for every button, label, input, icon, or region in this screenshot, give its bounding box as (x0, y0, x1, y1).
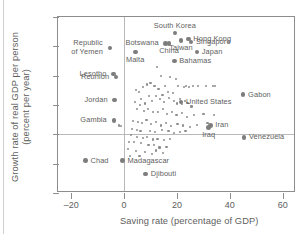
data-point (145, 119, 147, 121)
x-axis-tick (177, 193, 178, 199)
data-point (144, 102, 146, 104)
data-point (167, 91, 169, 93)
data-point (171, 111, 173, 113)
data-point (169, 138, 171, 140)
data-point (213, 114, 215, 116)
point-label-djibouti: Djibouti (151, 170, 211, 178)
data-point (149, 82, 151, 84)
data-point (161, 129, 163, 131)
data-point (147, 144, 149, 146)
data-point (196, 124, 198, 126)
data-point-djibouti (143, 172, 148, 177)
data-point (139, 104, 141, 106)
data-point (173, 100, 175, 102)
data-point (155, 95, 157, 97)
data-point (165, 122, 167, 124)
point-label-madagascar: Madagascar (128, 157, 188, 165)
data-point (155, 149, 157, 151)
y-axis-tick (53, 105, 59, 106)
data-point (160, 75, 162, 77)
data-point (155, 121, 157, 123)
data-point (120, 125, 122, 127)
y-axis-tick (53, 17, 59, 18)
data-point (172, 92, 174, 94)
x-axis-tick-label: –20 (51, 200, 91, 210)
data-point (177, 85, 179, 87)
data-point (168, 97, 170, 99)
x-axis-tick-label: 0 (104, 200, 144, 210)
x-axis-tick-label: 60 (263, 200, 303, 210)
point-label-gabon: Gabon (248, 91, 303, 99)
point-label-iraq: Iraq (179, 131, 239, 139)
data-point (136, 129, 138, 131)
point-label-reunion: Reunion (49, 73, 109, 81)
x-axis-tick-label: 40 (210, 200, 250, 210)
data-point (128, 141, 130, 143)
data-point (181, 112, 183, 114)
data-point (162, 108, 164, 110)
x-axis-tick (124, 193, 125, 199)
y-axis-tick (53, 193, 59, 194)
data-point (135, 150, 137, 152)
data-point (148, 95, 150, 97)
x-axis-tick (71, 193, 72, 199)
data-point (143, 110, 145, 112)
data-point (137, 121, 139, 123)
x-axis-tick (283, 193, 284, 199)
data-point (214, 85, 216, 87)
point-label-republic-of-yemen: Republic of Yemen (43, 39, 103, 55)
point-label-bahamas: Bahamas (179, 57, 239, 65)
data-point-jordan (112, 98, 117, 103)
point-label-gambia: Gambia (47, 116, 107, 124)
data-point (133, 141, 135, 143)
data-point (151, 100, 153, 102)
data-point-south-korea (173, 31, 178, 36)
point-label-malta: Malta (105, 56, 165, 64)
data-point (154, 131, 156, 133)
data-point (146, 136, 148, 138)
data-point (170, 125, 172, 127)
data-point-madagascar (120, 158, 125, 163)
data-point (169, 76, 171, 78)
point-label-japan: Japan (202, 48, 262, 56)
x-axis-tick (230, 193, 231, 199)
data-point (166, 113, 168, 115)
data-point (173, 132, 175, 134)
data-point-venezuela (242, 135, 247, 140)
data-point (152, 111, 154, 113)
data-point (151, 153, 153, 155)
data-point (138, 91, 140, 93)
data-point (175, 78, 177, 80)
data-point (167, 130, 169, 132)
data-point (160, 124, 162, 126)
data-point (182, 124, 184, 126)
y-axis-title: Growth rate of real GDP per person (perc… (10, 14, 32, 200)
data-point (140, 142, 142, 144)
data-point (157, 88, 159, 90)
data-point (153, 85, 155, 87)
data-point (139, 130, 141, 132)
point-label-jordan: Jordan (48, 96, 108, 104)
data-point (159, 98, 161, 100)
data-point (186, 116, 188, 118)
data-point (142, 137, 144, 139)
x-axis-title: Saving rate (percentage of GDP) (120, 216, 300, 226)
point-label-iran: Iran (215, 121, 275, 129)
data-point (205, 85, 207, 87)
y-axis-tick (53, 134, 59, 135)
page-edge-rule (3, 0, 4, 234)
data-point (176, 123, 178, 125)
data-point (132, 120, 134, 122)
data-point-gabon (241, 92, 246, 97)
data-point (134, 101, 136, 103)
data-point (136, 108, 138, 110)
data-point (127, 148, 129, 150)
data-point (161, 94, 163, 96)
data-point-reunion (114, 75, 119, 80)
y-axis-tick (53, 164, 59, 165)
data-point-bahamas (172, 59, 177, 64)
plot-area: –4–202468–200204060Republic of YemenSout… (57, 16, 295, 192)
data-point (130, 134, 132, 136)
data-point (153, 144, 155, 146)
data-point (165, 146, 167, 148)
